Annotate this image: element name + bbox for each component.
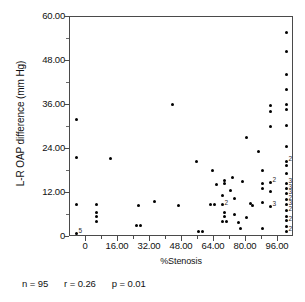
data-point — [285, 192, 288, 195]
data-point — [229, 189, 232, 192]
data-point — [285, 88, 288, 91]
data-point — [137, 204, 140, 207]
data-point — [95, 203, 98, 206]
data-point — [285, 164, 288, 167]
data-point — [285, 230, 288, 233]
plot-area: 5223233323222 — [69, 16, 293, 236]
data-point — [285, 124, 288, 127]
data-point — [285, 225, 288, 228]
data-point — [221, 203, 224, 206]
data-point — [285, 172, 288, 175]
data-point — [233, 197, 236, 200]
data-point — [223, 182, 226, 185]
overlap-count-label: 5 — [79, 228, 83, 235]
data-point — [285, 108, 288, 111]
data-point — [285, 219, 288, 222]
data-point — [75, 232, 78, 235]
data-point — [285, 182, 288, 185]
scatter-plot-figure: L-R OAP difference (mm Hg) 012.0024.0036… — [0, 0, 305, 302]
data-point — [95, 215, 98, 218]
x-axis-title: %Stenosis — [69, 256, 293, 266]
data-point — [223, 211, 226, 214]
data-point — [201, 230, 204, 233]
data-point — [245, 136, 248, 139]
data-point — [177, 204, 180, 207]
data-point — [221, 194, 224, 197]
data-point — [285, 203, 288, 206]
data-point — [241, 180, 244, 183]
data-point — [75, 156, 78, 159]
data-point — [75, 203, 78, 206]
correlation-stat: r = 0.26 — [64, 278, 96, 289]
data-point — [261, 169, 264, 172]
data-point — [197, 230, 200, 233]
data-point — [213, 203, 216, 206]
data-point — [171, 103, 174, 106]
overlap-count-label: 2 — [289, 216, 293, 223]
data-point — [285, 145, 288, 148]
y-axis-tick-label: 12.00 — [5, 186, 65, 197]
data-point — [285, 187, 288, 190]
data-point — [209, 203, 212, 206]
pvalue-stat: p = 0.01 — [112, 278, 146, 289]
data-point — [139, 224, 142, 227]
overlap-count-label: 2 — [289, 226, 293, 233]
data-point — [245, 216, 248, 219]
overlap-count-label: 2 — [225, 200, 229, 207]
data-point — [269, 104, 272, 107]
x-axis-tick-label: 96.00 — [247, 240, 305, 251]
data-point — [153, 200, 156, 203]
overlap-count-label: 3 — [273, 201, 277, 208]
data-point — [261, 201, 264, 204]
y-axis-tick-label: 36.00 — [5, 98, 65, 109]
data-point — [285, 215, 288, 218]
data-point — [109, 157, 112, 160]
statistics-line: n = 95r = 0.26p = 0.01 — [22, 278, 146, 289]
overlap-count-label: 2 — [289, 206, 293, 213]
data-point — [221, 220, 224, 223]
data-point — [261, 182, 264, 185]
data-point — [223, 215, 226, 218]
overlap-count-label: 2 — [289, 156, 293, 163]
y-axis-tick-label: 48.00 — [5, 54, 65, 65]
data-point — [225, 220, 228, 223]
data-point — [195, 160, 198, 163]
data-point — [285, 50, 288, 53]
data-point — [237, 221, 240, 224]
data-point — [233, 213, 236, 216]
data-point — [95, 211, 98, 214]
data-point — [285, 73, 288, 76]
data-point — [269, 190, 272, 193]
data-point — [251, 204, 254, 207]
data-point — [269, 181, 272, 184]
y-axis-tick-label: 24.00 — [5, 142, 65, 153]
data-point — [135, 224, 138, 227]
data-point — [285, 209, 288, 212]
x-axis-minor-tick — [165, 236, 166, 239]
data-point — [285, 198, 288, 201]
data-point — [231, 176, 234, 179]
data-point — [285, 31, 288, 34]
data-point — [261, 187, 264, 190]
x-axis-minor-tick — [101, 236, 102, 239]
data-point — [215, 183, 218, 186]
data-point — [75, 118, 78, 121]
data-point — [261, 227, 264, 230]
overlap-count-label: 2 — [273, 177, 277, 184]
x-axis-minor-tick — [197, 236, 198, 239]
x-axis-minor-tick — [229, 236, 230, 239]
data-point — [285, 160, 288, 163]
data-point — [269, 125, 272, 128]
y-axis-tick-label: 60.00 — [5, 10, 65, 21]
data-point — [285, 103, 288, 106]
data-point — [257, 150, 260, 153]
data-point — [269, 205, 272, 208]
x-axis-minor-tick — [133, 236, 134, 239]
y-axis-tick-mark — [64, 236, 69, 237]
sample-size-stat: n = 95 — [22, 278, 48, 289]
data-point — [211, 169, 214, 172]
data-point — [239, 227, 242, 230]
data-point — [95, 220, 98, 223]
data-point — [269, 110, 272, 113]
x-axis-minor-tick — [261, 236, 262, 239]
